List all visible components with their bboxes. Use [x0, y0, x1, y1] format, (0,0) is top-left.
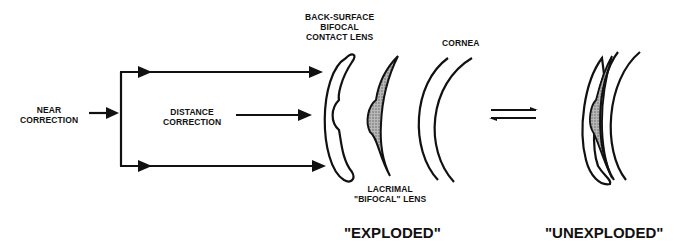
near-correction-label: NEAR CORRECTION — [20, 105, 78, 125]
exploded-caption: "EXPLODED" — [344, 224, 441, 241]
near-correction-arrow — [89, 107, 119, 119]
contact-label-line2: BIFOCAL — [305, 22, 374, 32]
distance-label-line2: CORRECTION — [163, 117, 221, 127]
distance-correction-label: DISTANCE CORRECTION — [163, 107, 221, 127]
contact-lens-label: BACK-SURFACE BIFOCAL CONTACT LENS — [305, 12, 374, 42]
unexploded-caption: "UNEXPLODED" — [545, 224, 663, 241]
near-label-line1: NEAR — [20, 105, 78, 115]
lacrimal-label-line2: "BIFOCAL" LENS — [354, 194, 426, 204]
contact-lens-shape — [325, 55, 355, 182]
distance-label-line1: DISTANCE — [163, 107, 221, 117]
cornea-label: CORNEA — [442, 38, 479, 48]
lacrimal-lens-shape — [368, 56, 398, 176]
contact-label-line1: BACK-SURFACE — [305, 12, 374, 22]
cornea-shape — [419, 58, 472, 182]
contact-label-line3: CONTACT LENS — [305, 32, 374, 42]
lacrimal-label-line1: LACRIMAL — [354, 184, 426, 194]
distance-correction-arrow — [236, 109, 312, 121]
double-arrow-icon — [489, 107, 538, 121]
lacrimal-lens-label: LACRIMAL "BIFOCAL" LENS — [354, 184, 426, 204]
near-label-line2: CORRECTION — [20, 115, 78, 125]
